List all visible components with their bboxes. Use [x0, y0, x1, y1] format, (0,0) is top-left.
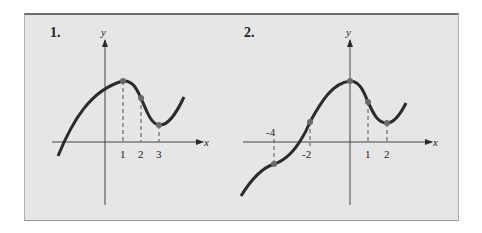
y-axis-label-1: y [100, 26, 106, 38]
point-2-x1 [365, 99, 371, 105]
tick-label-2-m2: -2 [302, 148, 311, 160]
tick-label-1-1: 1 [120, 148, 126, 160]
point-2-min [384, 120, 390, 126]
panel-number-1: 1. [50, 25, 61, 40]
tick-label-1-2: 2 [138, 148, 144, 160]
panel-number-2: 2. [244, 25, 255, 40]
x-axis-label-2: x [432, 136, 438, 148]
point-1-max [120, 78, 126, 84]
point-2-xm4 [271, 161, 277, 167]
graph-1: y x 1 2 3 1. [50, 25, 209, 205]
figure-svg: y x 1 2 3 1. y x -4 -2 1 2 2. [0, 0, 482, 233]
tick-label-2-m4: -4 [266, 126, 276, 138]
point-2-max [347, 78, 353, 84]
point-1-inflection [138, 95, 144, 101]
curve-2 [241, 81, 406, 196]
y-axis-label-2: y [345, 26, 351, 38]
curve-1 [58, 81, 184, 156]
tick-label-1-3: 3 [156, 148, 162, 160]
point-2-xm2 [307, 119, 313, 125]
point-1-min [156, 122, 162, 128]
graph-2: y x -4 -2 1 2 2. [241, 25, 438, 205]
tick-label-2-2: 2 [384, 148, 390, 160]
tick-label-2-1: 1 [365, 148, 371, 160]
x-axis-label-1: x [203, 136, 209, 148]
